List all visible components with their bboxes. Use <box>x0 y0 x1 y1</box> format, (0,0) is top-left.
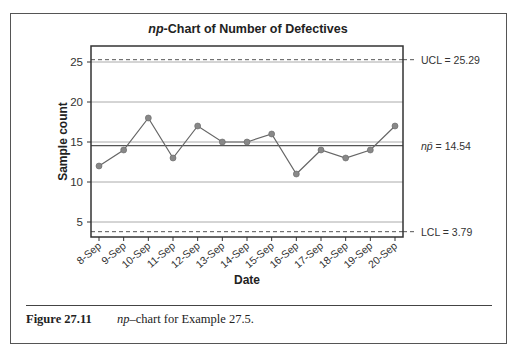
data-point <box>269 131 275 137</box>
data-point <box>367 147 373 153</box>
data-point <box>170 155 176 161</box>
caption-italic: np <box>117 312 130 326</box>
lcl-label: LCL = 3.79 <box>421 226 472 238</box>
data-point <box>318 147 324 153</box>
figure-caption: Figure 27.11 np–chart for Example 27.5. <box>26 312 254 327</box>
data-point <box>293 171 299 177</box>
data-point <box>195 123 201 129</box>
center-label: np̄ = 14.54 <box>421 140 471 152</box>
data-point <box>145 115 151 121</box>
np-chart-plot: 510152025UCL = 25.29LCL = 3.79np̄ = 14.5… <box>0 0 515 352</box>
y-tick-label: 15 <box>70 136 83 148</box>
data-point <box>96 163 102 169</box>
caption-rest: –chart for Example 27.5. <box>129 312 254 326</box>
data-point <box>392 123 398 129</box>
x-tick-label: 8-Sep <box>74 239 103 266</box>
data-point <box>121 147 127 153</box>
data-point <box>219 139 225 145</box>
y-tick-label: 20 <box>70 96 83 108</box>
x-axis-label: Date <box>234 273 260 287</box>
data-point <box>244 139 250 145</box>
figure-caption-text: np–chart for Example 27.5. <box>117 312 254 326</box>
figure-number: Figure 27.11 <box>26 312 92 326</box>
data-point <box>343 155 349 161</box>
caption-divider <box>26 305 492 306</box>
y-tick-label: 5 <box>77 216 83 228</box>
y-tick-label: 25 <box>70 56 83 68</box>
y-tick-label: 10 <box>70 176 83 188</box>
y-axis-label: Sample count <box>56 102 70 181</box>
ucl-label: UCL = 25.29 <box>421 54 480 66</box>
